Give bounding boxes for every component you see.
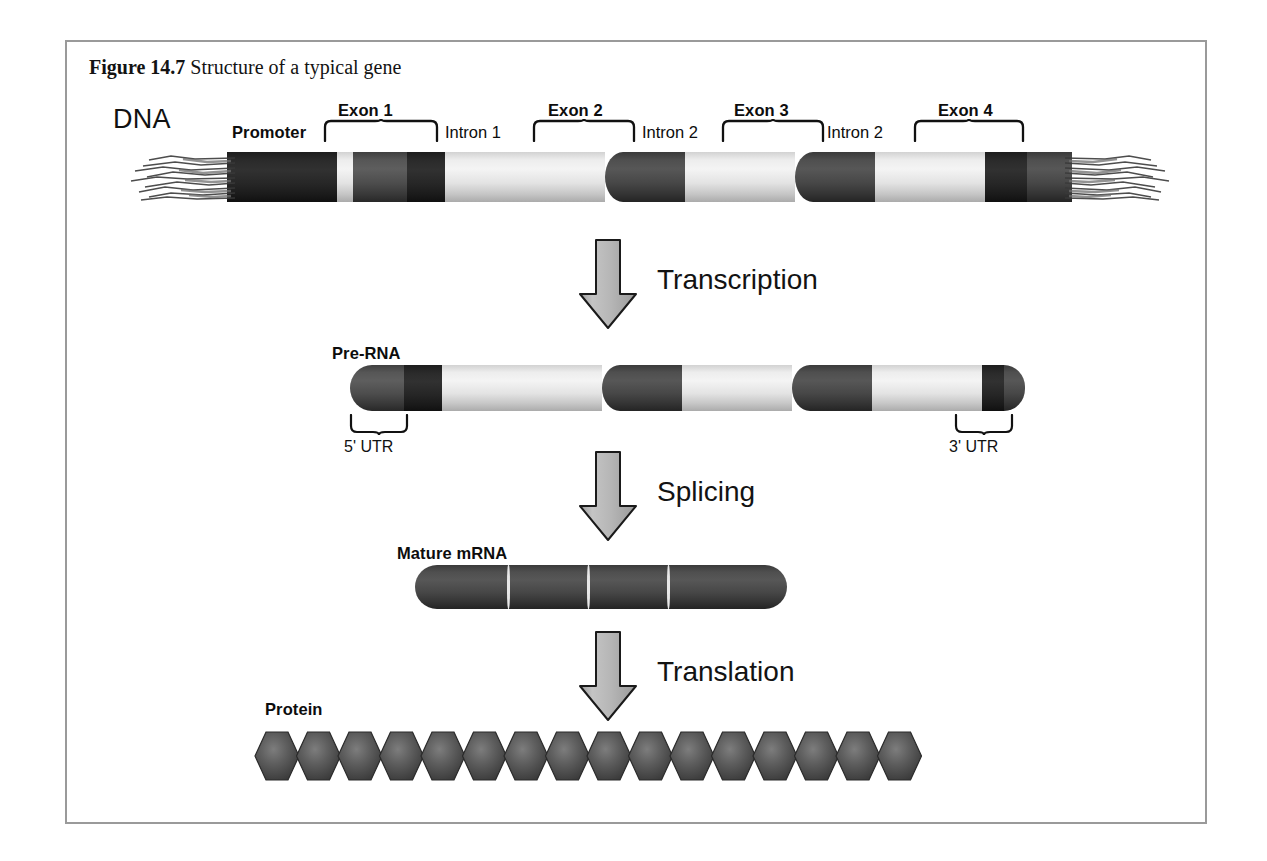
prerna-exon-1-coding (404, 365, 442, 411)
prerna-intron-3 (872, 365, 982, 411)
prerna-exon-3 (792, 365, 872, 411)
mature-mrna-strand (415, 565, 787, 609)
prerna-exon-1-utr (350, 365, 404, 411)
bracket-exon-3 (720, 118, 826, 142)
dna-row-label: DNA (113, 104, 171, 135)
figure-caption: Figure 14.7 Structure of a typical gene (89, 56, 401, 79)
label-3-utr: 3' UTR (949, 438, 998, 456)
protein-row-label: Protein (265, 700, 323, 719)
protein-residue-hexagon (546, 732, 590, 780)
dna-segment-exon-1-utr (353, 152, 407, 202)
dna-segment-intron-2 (685, 152, 795, 202)
protein-residue-hexagon (255, 732, 299, 780)
dna-segment-exon-4-coding (985, 152, 1027, 202)
protein-residue-hexagon (504, 732, 548, 780)
dna-segment-exon-1-coding (407, 152, 445, 202)
protein-residue-hexagon (421, 732, 465, 780)
bracket-5-utr (348, 414, 410, 436)
prerna-intron-2 (682, 365, 792, 411)
dna-segment-exon-2 (605, 152, 685, 202)
label-intron-1: Intron 1 (445, 123, 501, 142)
dna-segment-intron-3 (875, 152, 985, 202)
prerna-exon-2 (602, 365, 682, 411)
bracket-exon-1 (322, 118, 440, 142)
mrna-exon-divider-3 (667, 565, 670, 609)
process-label-transcription: Transcription (657, 264, 818, 296)
figure-number: Figure 14.7 (89, 56, 185, 78)
figure-title: Structure of a typical gene (190, 56, 401, 78)
bracket-3-utr (953, 414, 1015, 436)
prerna-row-label: Pre-RNA (332, 344, 401, 363)
prerna-exon-4-utr (1004, 365, 1025, 411)
dna-strand (227, 152, 1072, 202)
dna-frayed-end-right (1065, 150, 1177, 206)
protein-residue-hexagon (587, 732, 631, 780)
prerna-strand (350, 365, 1025, 411)
mrna-row-label: Mature mRNA (397, 544, 507, 563)
protein-residue-hexagon (836, 732, 880, 780)
bracket-exon-2 (531, 118, 637, 142)
protein-residue-hexagon (670, 732, 714, 780)
dna-segment-exon-3 (795, 152, 875, 202)
protein-residue-hexagon (795, 732, 839, 780)
mature-mrna-body (415, 565, 787, 609)
protein-residue-hexagon (629, 732, 673, 780)
protein-residue-hexagon (297, 732, 341, 780)
dna-segment-intron-1 (445, 152, 605, 202)
protein-hexagon-chain (253, 726, 953, 786)
prerna-exon-4-coding (982, 365, 1004, 411)
mrna-exon-divider-1 (507, 565, 510, 609)
protein-residue-hexagon (753, 732, 797, 780)
protein-residue-hexagon (380, 732, 424, 780)
splicing-arrow-icon (577, 450, 639, 542)
label-5-utr: 5' UTR (344, 438, 393, 456)
protein-residue-hexagon (463, 732, 507, 780)
label-intron-3: Intron 2 (827, 123, 883, 142)
protein-residue-hexagon (338, 732, 382, 780)
label-promoter: Promoter (232, 123, 306, 142)
translation-arrow-icon (577, 630, 639, 722)
prerna-intron-1 (442, 365, 602, 411)
protein-residue-hexagon (878, 732, 922, 780)
dna-segment-promoter (227, 152, 337, 202)
bracket-exon-4 (912, 118, 1026, 142)
dna-gap-1 (337, 152, 353, 202)
figure-frame: Figure 14.7 Structure of a typical gene … (65, 40, 1207, 824)
mrna-exon-divider-2 (587, 565, 590, 609)
process-label-translation: Translation (657, 656, 794, 688)
transcription-arrow-icon (577, 238, 639, 330)
dna-frayed-end-left (123, 150, 235, 206)
label-intron-2: Intron 2 (642, 123, 698, 142)
process-label-splicing: Splicing (657, 476, 755, 508)
protein-residue-hexagon (712, 732, 756, 780)
